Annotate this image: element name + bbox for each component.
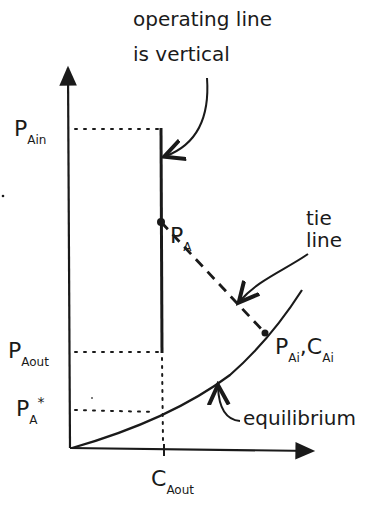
operating-line-arrow <box>166 78 207 156</box>
operating-line <box>161 128 162 353</box>
label-p-a: PA <box>170 225 192 247</box>
guide-caout <box>162 358 163 440</box>
tie-line-note-line1: tie <box>306 208 332 228</box>
label-c-aout: CAout <box>151 468 194 490</box>
equilibrium-arrow <box>218 387 240 421</box>
equilibrium-note: equilibrium <box>243 408 356 428</box>
point-pa <box>157 218 165 226</box>
tie-line-note-line2: line <box>306 230 342 250</box>
y-axis <box>68 68 70 448</box>
point-pai <box>262 330 269 337</box>
x-axis <box>70 448 313 451</box>
label-p-ai-c-ai: PAi,CAi <box>275 336 334 358</box>
label-p-aout: PAout <box>8 340 49 362</box>
label-p-a-star: PA* <box>16 398 45 420</box>
diagram-canvas <box>0 0 376 512</box>
stray-mark <box>91 397 93 399</box>
operating-line-note-line1: operating line <box>133 9 272 29</box>
stray-mark <box>2 195 5 198</box>
operating-line-note-line2: is vertical <box>133 44 230 64</box>
label-p-ain: PAin <box>14 118 46 140</box>
guide-pastar <box>75 410 155 412</box>
tie-line-arrow <box>240 254 308 301</box>
